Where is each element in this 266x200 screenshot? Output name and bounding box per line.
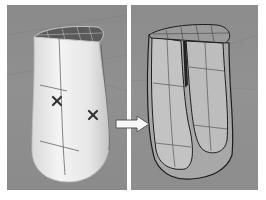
arrow-right-icon (115, 116, 151, 132)
left-viewport[interactable] (7, 5, 127, 190)
smooth-surface-model (7, 5, 127, 190)
split-surface-model (131, 5, 258, 190)
right-viewport[interactable] (131, 5, 258, 190)
